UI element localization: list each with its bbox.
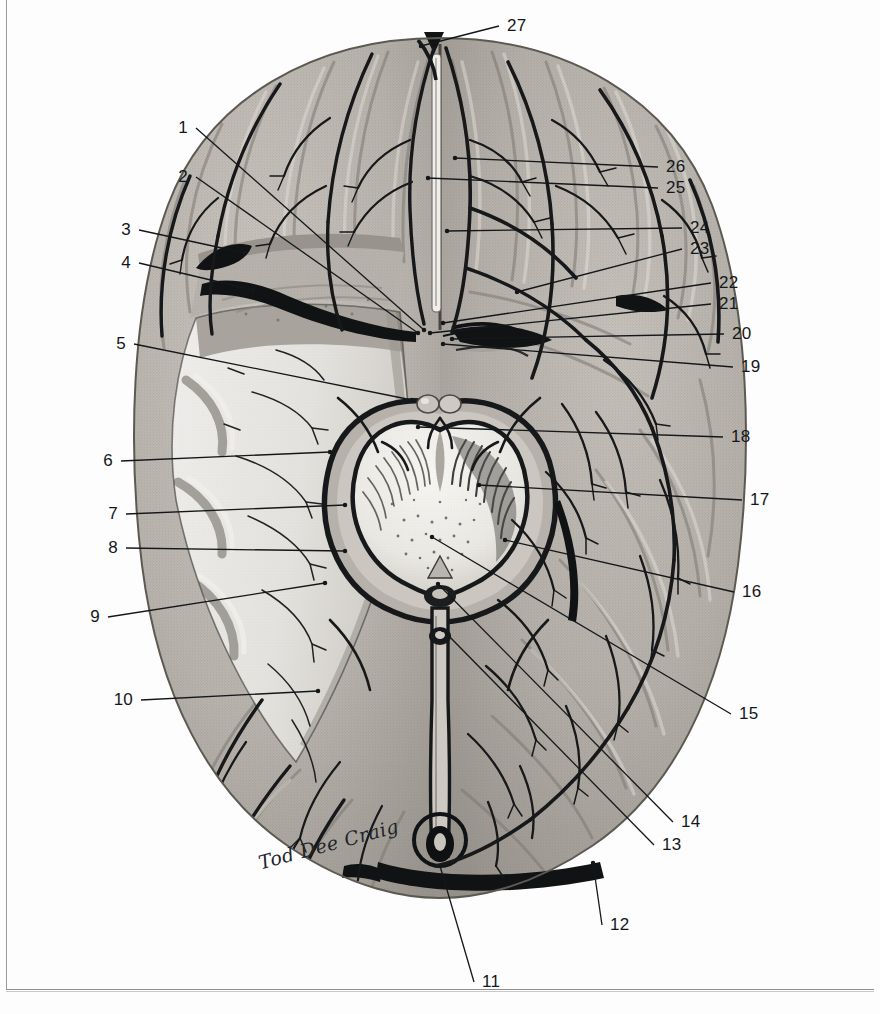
leader-tip-4	[251, 288, 254, 291]
callout-label-2: 2	[162, 168, 188, 185]
leader-tip-12	[591, 861, 594, 864]
leader-tip-19	[441, 342, 444, 345]
callout-label-24: 24	[690, 219, 709, 236]
leader-tip-17	[477, 483, 480, 486]
anatomical-plate: 1234567891027262524232221201918171615141…	[0, 0, 880, 1014]
leader-tip-9	[323, 581, 326, 584]
leader-tip-20	[450, 337, 453, 340]
interhemispheric-fissure	[432, 44, 441, 330]
leader-tip-16	[503, 538, 506, 541]
callout-label-25: 25	[666, 179, 685, 196]
leader-tip-1	[422, 328, 425, 331]
callout-label-4: 4	[105, 254, 131, 271]
callout-label-20: 20	[732, 325, 751, 342]
callout-label-18: 18	[731, 428, 750, 445]
leader-tip-7	[343, 503, 346, 506]
leader-tip-18	[416, 425, 419, 428]
leader-tip-22	[441, 321, 444, 324]
callout-label-9: 9	[74, 608, 100, 625]
callout-label-27: 27	[507, 17, 526, 34]
callout-label-7: 7	[92, 505, 118, 522]
callout-label-17: 17	[750, 491, 769, 508]
callout-label-12: 12	[610, 916, 629, 933]
leader-tip-8	[343, 549, 346, 552]
callout-label-1: 1	[162, 119, 188, 136]
callout-label-11: 11	[482, 973, 500, 990]
callout-label-3: 3	[105, 221, 131, 238]
callout-label-15: 15	[739, 705, 758, 722]
callout-label-22: 22	[719, 274, 738, 291]
brain-illustration	[0, 0, 880, 1014]
leader-tip-25	[426, 176, 429, 179]
leader-tip-26	[453, 156, 456, 159]
leader-tip-14	[436, 582, 439, 585]
leader-tip-13	[441, 628, 444, 631]
callout-label-10: 10	[107, 691, 133, 708]
brain-body	[110, 20, 770, 920]
leader-tip-23	[515, 290, 518, 293]
callout-label-21: 21	[719, 295, 738, 312]
leader-tip-10	[316, 689, 319, 692]
leader-tip-3	[243, 251, 246, 254]
callout-label-19: 19	[741, 358, 760, 375]
leader-tip-6	[328, 450, 331, 453]
leader-tip-27	[419, 44, 422, 47]
callout-label-14: 14	[681, 813, 700, 830]
leader-tip-2	[416, 331, 419, 334]
callout-label-8: 8	[92, 539, 118, 556]
callout-label-26: 26	[666, 158, 685, 175]
leader-tip-11	[438, 864, 441, 867]
callout-label-13: 13	[662, 836, 681, 853]
callout-label-23: 23	[690, 240, 709, 257]
callout-label-5: 5	[100, 335, 126, 352]
callout-label-16: 16	[742, 583, 761, 600]
leader-tip-21	[428, 331, 431, 334]
leader-tip-15	[430, 535, 433, 538]
leader-tip-5	[410, 398, 413, 401]
callout-label-6: 6	[87, 452, 113, 469]
leader-tip-24	[445, 229, 448, 232]
